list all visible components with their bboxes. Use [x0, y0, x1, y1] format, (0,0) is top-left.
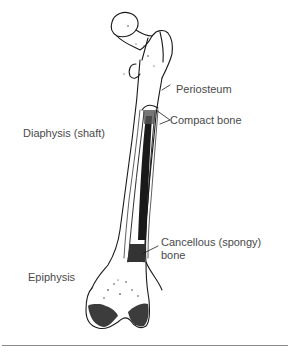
label-cancellous-line2: bone — [161, 249, 185, 262]
femur-illustration — [0, 0, 290, 355]
femoral-head — [111, 12, 138, 36]
leader-periosteum — [162, 85, 170, 90]
femoral-neck — [117, 31, 172, 78]
bottom-rule-divider — [2, 345, 288, 346]
label-diaphysis: Diaphysis (shaft) — [23, 127, 105, 140]
femur-diagram: Periosteum Compact bone Diaphysis (shaft… — [0, 0, 290, 355]
label-cancellous-line1: Cancellous (spongy) — [161, 236, 261, 249]
label-periosteum: Periosteum — [176, 83, 232, 96]
label-compact-bone: Compact bone — [170, 114, 242, 127]
label-epiphysis: Epiphysis — [28, 271, 75, 284]
